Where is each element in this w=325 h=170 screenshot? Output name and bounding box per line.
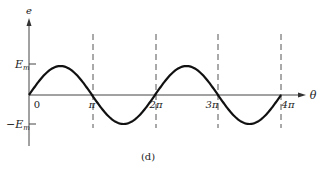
x-axis-label: θ bbox=[310, 89, 317, 102]
tick-label-4pi: 4π bbox=[281, 99, 295, 110]
tick-label-3pi: 3π bbox=[206, 99, 219, 110]
tick-label-2pi: 2π bbox=[149, 99, 163, 110]
em-label: Em bbox=[14, 58, 30, 72]
x-axis-arrow-icon bbox=[298, 93, 306, 98]
neg-em-label: −Em bbox=[6, 118, 30, 132]
dashed-guides bbox=[93, 34, 281, 128]
y-axis-arrow-icon bbox=[27, 18, 32, 26]
figure-caption: (d) bbox=[141, 151, 155, 162]
tick-label-pi: π bbox=[88, 99, 96, 110]
tick-label-0: 0 bbox=[34, 99, 40, 110]
sine-wave-diagram: e θ Em −Em 0 π 2π 3π 4π (d) bbox=[0, 0, 325, 170]
y-axis-label: e bbox=[26, 5, 32, 16]
